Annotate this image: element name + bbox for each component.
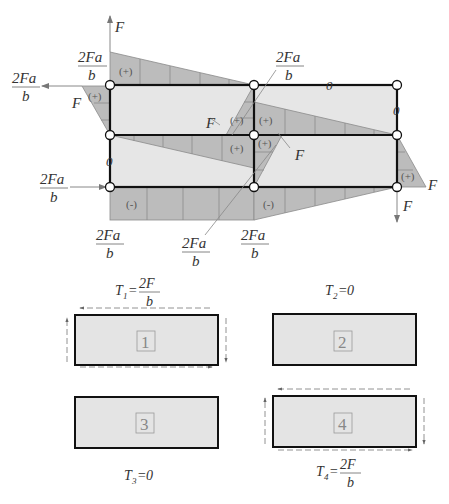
svg-text:2F: 2F bbox=[340, 457, 356, 472]
svg-text:(+): (+) bbox=[259, 114, 273, 127]
svg-text:2Fa: 2Fa bbox=[40, 171, 64, 187]
svg-text:F: F bbox=[114, 19, 125, 35]
svg-text:F: F bbox=[402, 198, 413, 214]
svg-text:2Fa: 2Fa bbox=[241, 227, 265, 243]
svg-text:b: b bbox=[106, 245, 114, 261]
svg-text:1: 1 bbox=[123, 291, 128, 301]
svg-text:4: 4 bbox=[338, 415, 347, 434]
svg-text:b: b bbox=[285, 67, 293, 83]
svg-text:b: b bbox=[347, 475, 354, 490]
svg-text:b: b bbox=[192, 253, 200, 269]
cell-4: 4 T 4 = 2F b bbox=[265, 389, 424, 490]
cell-2: T 2 = 0 2 bbox=[273, 283, 416, 365]
svg-text:2Fa: 2Fa bbox=[96, 227, 120, 243]
svg-text:b: b bbox=[50, 189, 58, 205]
svg-text:b: b bbox=[251, 245, 259, 261]
svg-text:0: 0 bbox=[393, 103, 400, 118]
svg-text:F: F bbox=[205, 115, 216, 131]
svg-text:(+): (+) bbox=[119, 65, 133, 78]
svg-text:(+): (+) bbox=[88, 90, 102, 103]
svg-text:1: 1 bbox=[141, 333, 150, 352]
svg-text:2: 2 bbox=[338, 333, 347, 352]
svg-text:F: F bbox=[294, 147, 305, 163]
svg-text:F: F bbox=[427, 177, 438, 193]
svg-text:(-): (-) bbox=[263, 198, 274, 211]
svg-text:0: 0 bbox=[347, 283, 354, 298]
cell-1: T 1 = 2F b 1 bbox=[67, 276, 226, 367]
svg-text:0: 0 bbox=[326, 78, 333, 93]
svg-text:F: F bbox=[71, 95, 82, 111]
svg-text:(+): (+) bbox=[258, 137, 272, 150]
svg-text:2Fa: 2Fa bbox=[12, 70, 36, 86]
svg-text:2Fa: 2Fa bbox=[182, 235, 206, 251]
svg-text:=: = bbox=[128, 283, 137, 298]
svg-text:(-): (-) bbox=[126, 198, 137, 211]
svg-text:2Fa: 2Fa bbox=[276, 49, 300, 65]
svg-text:3: 3 bbox=[140, 415, 149, 434]
svg-text:(+): (+) bbox=[401, 170, 415, 183]
svg-text:=: = bbox=[329, 464, 338, 479]
frame-diagram: (+) (+) (+) (+) (+) (+) (+) (-) (-) 0 0 … bbox=[0, 0, 449, 504]
svg-text:2F: 2F bbox=[139, 276, 155, 291]
svg-text:b: b bbox=[146, 294, 153, 309]
svg-text:b: b bbox=[22, 88, 30, 104]
cell-3: 3 T 3 = 0 bbox=[75, 397, 218, 486]
svg-text:2Fa: 2Fa bbox=[78, 49, 102, 65]
svg-text:0: 0 bbox=[146, 468, 153, 483]
svg-text:(+): (+) bbox=[230, 142, 244, 155]
svg-text:b: b bbox=[88, 67, 96, 83]
svg-text:0: 0 bbox=[106, 154, 113, 169]
svg-text:(+): (+) bbox=[230, 114, 244, 127]
